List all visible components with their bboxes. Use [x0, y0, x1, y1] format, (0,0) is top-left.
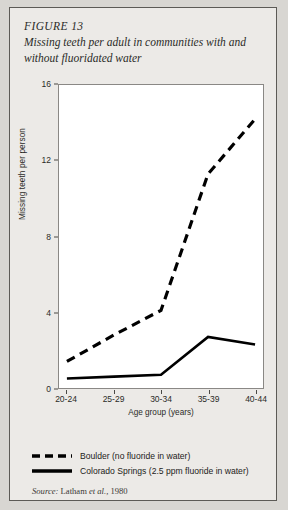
- y-tick-label: 8: [46, 232, 51, 242]
- plot-area: [58, 84, 264, 389]
- y-tick-label: 4: [46, 308, 51, 318]
- figure-source: Source: Latham et al., 1980: [32, 486, 128, 496]
- y-tick-label: 16: [42, 79, 51, 89]
- x-tick-mark: [114, 390, 115, 394]
- x-tick-label: 25-29: [103, 394, 125, 404]
- figure-title: Missing teeth per adult in communities w…: [24, 35, 264, 66]
- x-tick-label: 20-24: [55, 394, 77, 404]
- figure-card: FIGURE 13 Missing teeth per adult in com…: [9, 7, 277, 501]
- x-tick-label: 30-34: [150, 394, 172, 404]
- x-tick-label: 35-39: [198, 394, 220, 404]
- dashed-line-icon: [32, 450, 72, 462]
- solid-line-icon: [32, 465, 72, 477]
- series-line: [67, 119, 255, 361]
- y-tick-label: 0: [46, 384, 51, 394]
- source-year: 1980: [110, 486, 127, 496]
- source-prefix: Source:: [32, 486, 58, 496]
- y-tick-label: 12: [42, 155, 51, 165]
- series-line: [67, 337, 255, 379]
- x-tick-label: 40-44: [245, 394, 267, 404]
- x-tick-mark: [66, 390, 67, 394]
- legend-label: Boulder (no fluoride in water): [80, 451, 190, 461]
- source-author: Latham: [61, 486, 87, 496]
- x-tick-mark: [161, 390, 162, 394]
- y-axis-label: Missing teeth per person: [18, 114, 27, 234]
- chart-container: Missing teeth per person 0481216 20-2425…: [24, 84, 266, 424]
- x-axis-label: Age group (years): [58, 408, 264, 417]
- figure-number: FIGURE 13: [24, 19, 264, 34]
- x-tick-mark: [256, 390, 257, 394]
- x-axis-ticks: 20-2425-2930-3435-3940-44: [58, 390, 264, 406]
- chart-lines: [59, 85, 263, 388]
- legend-item: Colorado Springs (2.5 ppm fluoride in wa…: [32, 463, 264, 478]
- x-tick-mark: [209, 390, 210, 394]
- legend-item: Boulder (no fluoride in water): [32, 448, 264, 463]
- y-axis-ticks: 0481216: [32, 84, 54, 389]
- source-etal: et al.,: [89, 486, 108, 496]
- legend-label: Colorado Springs (2.5 ppm fluoride in wa…: [80, 466, 249, 476]
- chart-legend: Boulder (no fluoride in water)Colorado S…: [32, 448, 264, 478]
- figure-caption: FIGURE 13 Missing teeth per adult in com…: [24, 19, 264, 66]
